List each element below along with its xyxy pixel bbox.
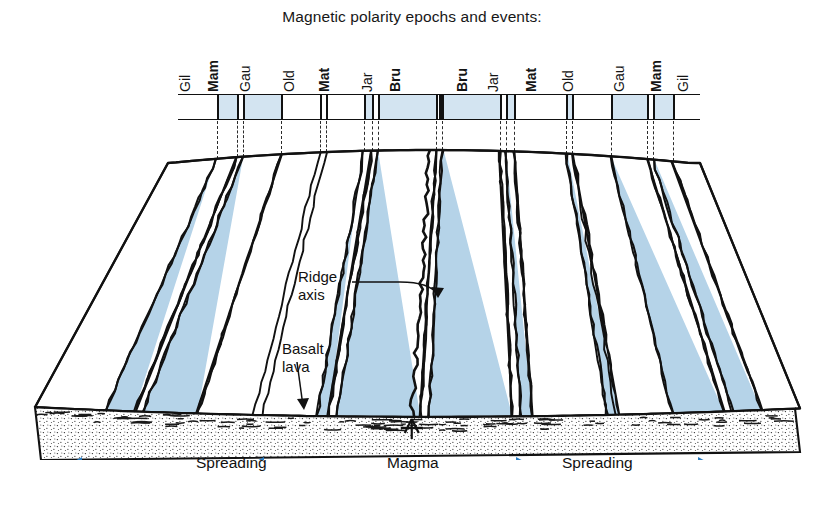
polarity-divider-13 — [514, 95, 516, 119]
polarity-divider-0 — [217, 95, 219, 119]
epoch-label-0: Gil — [178, 48, 192, 92]
seafloor-texture-dash — [139, 416, 151, 417]
seafloor-texture-dash — [324, 429, 341, 430]
polarity-divider-3 — [281, 95, 283, 119]
ridge-axis-label: Ridge axis — [298, 268, 337, 303]
seafloor-texture-dash — [719, 420, 725, 421]
seafloor-texture-dash — [363, 427, 380, 428]
polarity-divider-19 — [673, 95, 675, 119]
seafloor-texture-dash — [684, 424, 698, 425]
polarity-divider-9 — [436, 95, 438, 119]
seafloor-texture-dash — [506, 424, 518, 425]
seafloor-texture-dash — [379, 429, 391, 430]
polarity-divider-7 — [372, 95, 374, 119]
seafloor-texture-dash — [114, 418, 131, 419]
seafloor-texture-dash — [138, 422, 152, 423]
seafloor-texture-dash — [446, 428, 465, 429]
seafloor-texture-dash — [35, 414, 47, 415]
spreading-label-right: Spreading — [562, 454, 633, 472]
polarity-divider-8 — [378, 95, 380, 119]
figure-title: Magnetic polarity epochs and events: — [0, 8, 824, 26]
seafloor-texture-dash — [517, 423, 527, 424]
seafloor-texture-dash — [163, 415, 182, 416]
epoch-label-4: Mat — [317, 48, 331, 92]
seafloor-texture-dash — [237, 419, 254, 420]
seafloor-texture-dash — [640, 417, 648, 418]
epoch-label-10: Old — [561, 48, 575, 92]
polarity-divider-17 — [647, 95, 649, 119]
polarity-divider-10 — [442, 95, 444, 119]
epoch-label-12: Mam — [649, 48, 663, 92]
polarity-divider-11 — [500, 95, 502, 119]
spreading-arrow-3 — [633, 457, 711, 460]
seafloor-texture-dash — [502, 423, 508, 424]
seafloor-texture-dash — [304, 422, 310, 423]
polarity-divider-14 — [566, 95, 568, 119]
seafloor-block-diagram — [0, 130, 824, 460]
seafloor-texture-dash — [714, 425, 725, 426]
basalt-lava-label: Basalt lava — [282, 340, 324, 375]
polarity-segment-0 — [217, 95, 237, 119]
seafloor-texture-dash — [345, 421, 356, 422]
ridge-axis-label-line1: Ridge — [298, 268, 337, 286]
seafloor-texture-dash — [658, 422, 672, 423]
seafloor-texture-dash — [371, 423, 385, 424]
polarity-segment-1 — [243, 95, 281, 119]
ridge-axis-label-line2: axis — [298, 286, 337, 304]
seafloor-texture-dash — [188, 421, 198, 422]
polarity-divider-5 — [326, 95, 328, 119]
seafloor-texture-dash — [484, 426, 497, 427]
epoch-label-11: Gau — [612, 48, 626, 92]
spreading-arrow-2 — [451, 457, 529, 460]
seafloor-texture-dash — [452, 431, 467, 432]
epoch-label-6: Bru — [388, 48, 402, 92]
polarity-divider-12 — [506, 95, 508, 119]
seafloor-texture-dash — [242, 426, 261, 427]
seafloor-texture-dash — [384, 425, 403, 426]
polarity-divider-1 — [237, 95, 239, 119]
seafloor-texture-dash — [483, 424, 489, 425]
polarity-segment-8 — [653, 95, 673, 119]
basalt-lava-label-line1: Basalt — [282, 340, 324, 358]
polarity-divider-15 — [572, 95, 574, 119]
polarity-ridge-divider — [439, 95, 442, 119]
polarity-segment-4 — [442, 95, 500, 119]
polarity-divider-18 — [653, 95, 655, 119]
seafloor-texture-dash — [94, 422, 100, 423]
epoch-label-1: Mam — [206, 48, 220, 92]
epoch-label-2: Gau — [238, 48, 252, 92]
polarity-divider-6 — [364, 95, 366, 119]
polarity-divider-16 — [611, 95, 613, 119]
figure-canvas: Magnetic polarity epochs and events: Gil… — [0, 0, 824, 521]
seafloor-texture-dash — [539, 420, 555, 421]
epoch-label-9: Mat — [524, 48, 538, 92]
epoch-label-7: Bru — [455, 48, 469, 92]
polarity-segment-7 — [611, 95, 647, 119]
magma-label: Magma — [387, 454, 439, 472]
seafloor-texture-dash — [246, 421, 256, 422]
epoch-label-8: Jar — [486, 48, 500, 92]
spreading-label-left: Spreading — [196, 454, 267, 472]
seafloor-texture-dash — [74, 415, 85, 416]
epoch-label-13: Gil — [676, 48, 690, 92]
seafloor-texture-dash — [439, 424, 446, 425]
polarity-divider-4 — [320, 95, 322, 119]
polarity-divider-2 — [243, 95, 245, 119]
magnetic-polarity-bar — [178, 94, 700, 120]
polarity-segment-3 — [378, 95, 436, 119]
basalt-lava-label-line2: lava — [282, 358, 324, 376]
epoch-label-5: Jar — [360, 48, 374, 92]
epoch-label-3: Old — [282, 48, 296, 92]
seafloor-texture-dash — [540, 429, 549, 430]
